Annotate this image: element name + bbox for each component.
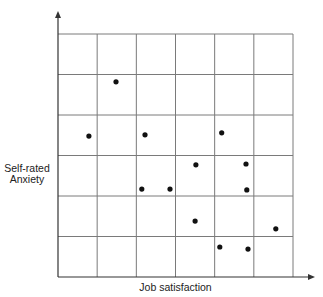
data-point	[217, 244, 222, 249]
data-point	[243, 161, 248, 166]
data-point	[86, 134, 91, 139]
data-point	[113, 79, 118, 84]
data-point	[219, 130, 224, 135]
axes	[55, 11, 315, 280]
y-axis-label: Self-rated Anxiety	[2, 163, 52, 185]
y-axis-arrow-icon	[55, 11, 61, 18]
data-point	[193, 219, 198, 224]
x-axis-arrow-icon	[308, 274, 315, 280]
data-point	[193, 162, 198, 167]
data-point	[245, 247, 250, 252]
y-axis-label-line2: Anxiety	[2, 174, 52, 185]
data-point	[142, 132, 147, 137]
x-axis-label: Job satisfaction	[58, 281, 293, 293]
scatter-plot	[0, 0, 323, 297]
data-point	[167, 187, 172, 192]
data-points	[86, 79, 278, 252]
grid-lines	[58, 34, 293, 277]
data-point	[244, 187, 249, 192]
data-point	[273, 226, 278, 231]
data-point	[139, 187, 144, 192]
